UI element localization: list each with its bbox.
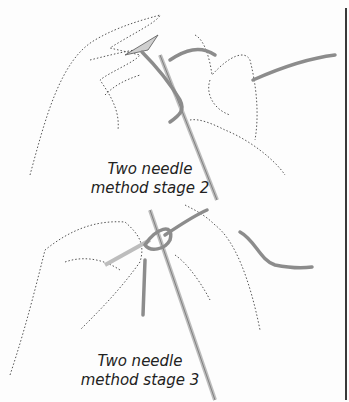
hands-stage-3: [10, 205, 260, 375]
right-margin-rule: [345, 8, 347, 400]
knitting-illustration: [0, 0, 349, 402]
caption-stage-2-line1: Two needle: [80, 160, 220, 179]
hands-stage-2: [30, 15, 285, 175]
caption-stage-3-line1: Two needle: [70, 352, 210, 371]
caption-stage-3-line2: method stage 3: [70, 371, 210, 390]
caption-stage-2: Two needle method stage 2: [80, 160, 220, 198]
yarn-stage-2: [142, 50, 335, 122]
illustration-page: Two needle method stage 2 Two needle met…: [0, 0, 349, 402]
caption-stage-2-line2: method stage 2: [80, 179, 220, 198]
caption-stage-3: Two needle method stage 3: [70, 352, 210, 390]
